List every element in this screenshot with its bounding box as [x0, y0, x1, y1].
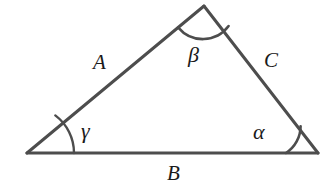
side-label-b: B: [167, 163, 180, 184]
triangle-diagram: A B C α β γ: [0, 0, 334, 188]
side-label-c: C: [264, 50, 278, 71]
angle-label-gamma: γ: [81, 120, 90, 142]
triangle-sides: [27, 6, 318, 153]
angle-label-alpha: α: [253, 121, 265, 143]
triangle-figure-svg: [0, 0, 334, 188]
angle-label-beta: β: [188, 44, 199, 66]
side-label-a: A: [93, 52, 106, 73]
angle-alpha-arc: [286, 126, 301, 153]
